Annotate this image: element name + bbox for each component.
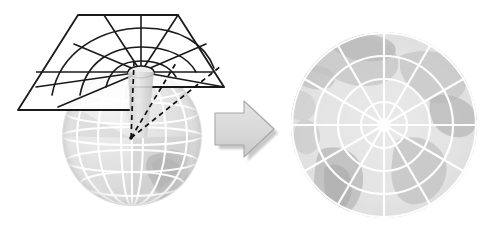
diagram-canvas: Azimuthal (planar) map projection diagra… xyxy=(0,0,483,233)
globe-centre-point xyxy=(129,136,133,140)
map-pole-point xyxy=(377,118,391,132)
projection-diagram-svg: Azimuthal (planar) map projection diagra… xyxy=(0,0,483,233)
